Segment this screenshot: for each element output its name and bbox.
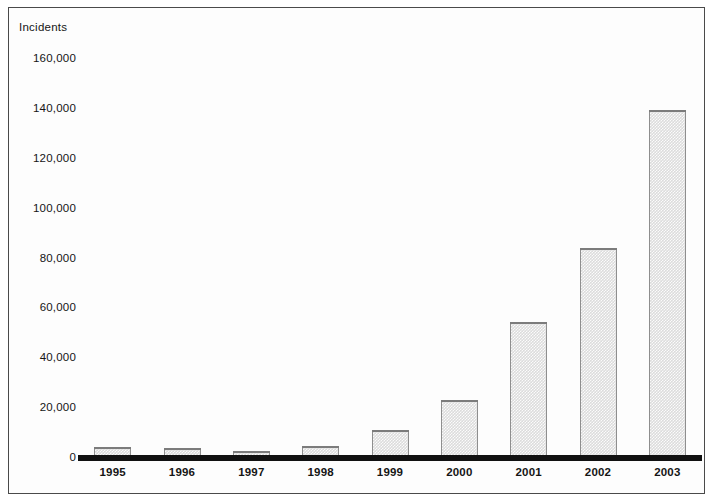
bar-top-edge: [302, 446, 339, 448]
bar-top-edge: [94, 447, 131, 449]
bar-top-edge: [233, 451, 270, 453]
plot-area: 020,00040,00060,00080,000100,000120,0001…: [0, 0, 714, 502]
x-tick-2002: 2002: [568, 466, 628, 478]
bar-top-edge: [441, 400, 478, 402]
bar-top-edge: [372, 430, 409, 432]
x-tick-1996: 1996: [152, 466, 212, 478]
x-tick-1995: 1995: [83, 466, 143, 478]
x-tick-2001: 2001: [499, 466, 559, 478]
x-tick-1999: 1999: [360, 466, 420, 478]
y-tick-0: 0: [0, 451, 76, 463]
y-tick-20000: 20,000: [0, 401, 76, 413]
x-tick-1997: 1997: [221, 466, 281, 478]
figure-container: Incidents 020,00040,00060,00080,000100,0…: [0, 0, 714, 502]
y-tick-140000: 140,000: [0, 102, 76, 114]
y-tick-40000: 40,000: [0, 351, 76, 363]
bar-top-edge: [164, 448, 201, 450]
bar-2000: [441, 400, 478, 457]
x-tick-2000: 2000: [429, 466, 489, 478]
bar-top-edge: [649, 110, 686, 112]
y-tick-120000: 120,000: [0, 152, 76, 164]
x-tick-2003: 2003: [637, 466, 697, 478]
bar-top-edge: [580, 248, 617, 250]
y-tick-100000: 100,000: [0, 202, 76, 214]
bar-1999: [372, 430, 409, 457]
bar-2001: [510, 322, 547, 457]
bar-2002: [580, 248, 617, 457]
y-tick-60000: 60,000: [0, 301, 76, 313]
bar-top-edge: [510, 322, 547, 324]
x-axis-baseline: [78, 455, 702, 461]
y-tick-80000: 80,000: [0, 252, 76, 264]
bar-2003: [649, 110, 686, 457]
y-tick-160000: 160,000: [0, 52, 76, 64]
x-tick-1998: 1998: [291, 466, 351, 478]
